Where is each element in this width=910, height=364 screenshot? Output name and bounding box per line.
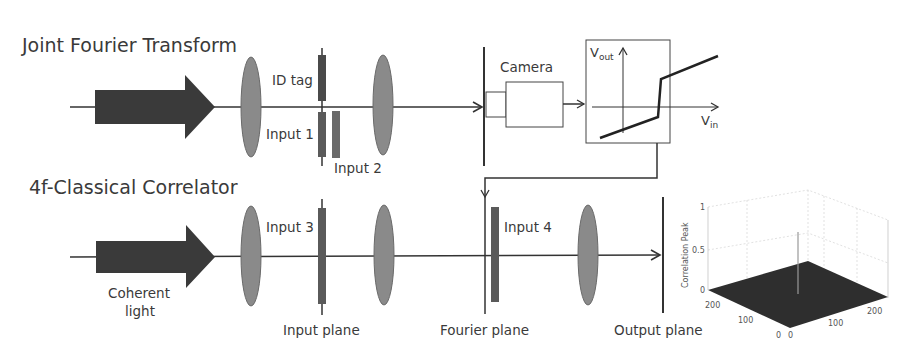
label-input-1: Input 1 bbox=[266, 126, 314, 142]
camera-body bbox=[506, 82, 563, 127]
bottom-lens-1 bbox=[241, 206, 261, 306]
input-4-element bbox=[491, 207, 499, 302]
top-lens-2 bbox=[373, 55, 393, 155]
input-3-element bbox=[318, 208, 326, 304]
camera-lens-mount bbox=[486, 92, 506, 117]
svg-text:100: 100 bbox=[828, 319, 843, 328]
svg-text:0.5: 0.5 bbox=[692, 246, 705, 255]
bottom-lens-2 bbox=[374, 205, 394, 305]
label-input-plane: Input plane bbox=[283, 322, 360, 338]
optical-correlator-diagram: Joint Fourier Transform ID tag Input 1 I… bbox=[0, 0, 910, 364]
label-coherent: Coherent bbox=[108, 285, 170, 301]
label-input-4: Input 4 bbox=[504, 219, 552, 235]
bottom-lens-3 bbox=[578, 205, 598, 305]
top-light-arrow-icon bbox=[95, 75, 215, 139]
label-output-plane: Output plane bbox=[614, 322, 703, 338]
vin-label: Vin bbox=[701, 113, 718, 130]
label-camera: Camera bbox=[500, 59, 553, 75]
correlation-peak-3d-plot: 1 0.5 0 Correlation Peak 200 100 0 0 100… bbox=[681, 190, 888, 340]
title-4f-classical-correlator: 4f-Classical Correlator bbox=[29, 176, 238, 198]
input-2-element bbox=[332, 111, 340, 158]
label-input-2: Input 2 bbox=[334, 160, 382, 176]
label-input-3: Input 3 bbox=[266, 219, 314, 235]
svg-text:0: 0 bbox=[776, 331, 781, 340]
svg-text:0: 0 bbox=[788, 331, 793, 340]
id-tag-element bbox=[318, 55, 326, 101]
input-1-element bbox=[318, 112, 326, 157]
top-lens-1 bbox=[241, 57, 261, 157]
svg-text:200: 200 bbox=[867, 307, 882, 316]
label-id-tag: ID tag bbox=[272, 72, 313, 88]
bottom-light-arrow-icon bbox=[96, 225, 215, 288]
label-fourier-plane: Fourier plane bbox=[440, 322, 529, 338]
feedback-line bbox=[485, 143, 657, 197]
svg-text:200: 200 bbox=[705, 301, 720, 310]
z-axis-label: Correlation Peak bbox=[681, 222, 690, 288]
title-joint-fourier-transform: Joint Fourier Transform bbox=[21, 34, 237, 56]
label-light: light bbox=[125, 303, 155, 319]
svg-text:1: 1 bbox=[700, 203, 705, 212]
svg-text:100: 100 bbox=[738, 316, 753, 325]
svg-text:0: 0 bbox=[700, 286, 705, 295]
